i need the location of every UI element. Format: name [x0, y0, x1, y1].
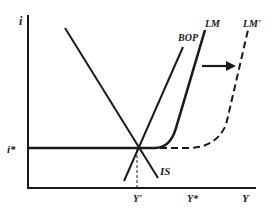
is-label: IS — [159, 165, 170, 177]
lm-label: LM — [204, 18, 221, 29]
lm-shifted-label: LM' — [242, 18, 261, 29]
bop-curve — [124, 47, 183, 181]
y-star-label: Y* — [187, 193, 199, 204]
is-curve — [65, 28, 158, 178]
y-axis-label: i — [19, 14, 23, 28]
islm-bop-diagram: i Y i* Y' Y* IS BOP LM LM' — [0, 0, 273, 209]
bop-label: BOP — [177, 32, 199, 43]
y-prime-label: Y' — [133, 193, 142, 204]
shift-arrow-icon — [202, 61, 236, 71]
lm-shifted-curve — [28, 30, 248, 148]
x-axis-label: Y — [242, 192, 250, 204]
i-star-label: i* — [7, 143, 16, 155]
lm-curve — [28, 30, 205, 148]
axes — [27, 15, 256, 188]
